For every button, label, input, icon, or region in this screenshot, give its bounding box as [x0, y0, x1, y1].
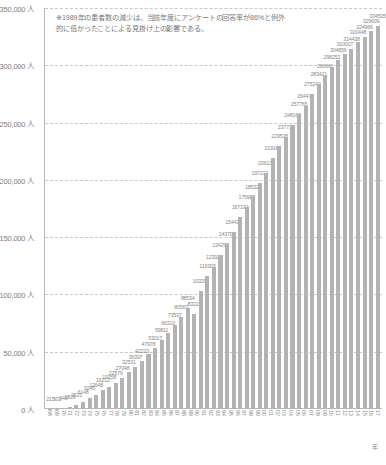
x-axis-tick-text: 97 — [241, 410, 247, 416]
bar — [343, 54, 347, 409]
bar — [88, 398, 92, 409]
y-axis-tick-label: 150,000 人 — [0, 232, 34, 243]
x-axis-tick: 02 — [274, 410, 281, 444]
bar — [48, 409, 52, 410]
x-axis-tick-text: 86 — [168, 410, 174, 416]
x-axis-tick-text: 80 — [128, 410, 134, 416]
x-axis-tick-text: 81 — [134, 410, 140, 416]
x-axis-tick-text: 07 — [308, 410, 314, 416]
bar — [114, 383, 118, 409]
bar — [212, 267, 216, 409]
x-axis-tick: 82 — [141, 410, 148, 444]
x-axis-tick: 88 — [181, 410, 188, 444]
x-axis-tick: 80 — [127, 410, 134, 444]
x-axis-tick: 89 — [187, 410, 194, 444]
x-axis-tick: 94 — [221, 410, 228, 444]
x-axis-tick: 71 — [67, 410, 74, 444]
x-axis-tick-text: 95 — [228, 410, 234, 416]
bar — [277, 146, 281, 409]
bar — [218, 255, 222, 409]
bar — [74, 405, 78, 409]
x-axis-tick: 07 — [308, 410, 315, 444]
bar — [120, 378, 124, 409]
y-axis-tick-label: 100,000 人 — [0, 289, 34, 300]
x-axis-tick: 17 — [375, 410, 382, 444]
x-axis-tick-text: 00 — [261, 410, 267, 416]
x-axis-tick-text: 11 — [335, 410, 341, 415]
x-axis-tick: 06 — [301, 410, 308, 444]
y-axis-tick-label: 50,000 人 — [4, 346, 34, 357]
x-axis-tick: 97 — [241, 410, 248, 444]
x-axis-tick-text: 16 — [368, 410, 374, 416]
x-axis-tick-text: 01 — [268, 410, 274, 416]
x-axis-tick: 03 — [281, 410, 288, 444]
x-axis-tick-text: 09 — [322, 410, 328, 416]
bar — [376, 26, 380, 409]
x-axis-tick-text: 15 — [362, 410, 368, 416]
x-axis-tick: 86 — [167, 410, 174, 444]
bar-chart: 350,000 人300,000 人250,000 人200,000 人150,… — [0, 0, 386, 465]
x-axis-tick: 85 — [161, 410, 168, 444]
y-axis-tick-label: 0 人 — [21, 404, 34, 415]
bar — [245, 207, 249, 409]
x-axis-tick-text: 76 — [101, 410, 107, 416]
bar — [179, 317, 183, 409]
x-axis-tick: 93 — [214, 410, 221, 444]
x-axis-tick-text: 05 — [295, 410, 301, 416]
bar — [271, 158, 275, 409]
x-axis-tick: 04 — [288, 410, 295, 444]
x-axis-tick: 76 — [101, 410, 108, 444]
x-axis-tick: 87 — [174, 410, 181, 444]
x-axis-tick: 15 — [361, 410, 368, 444]
x-axis-tick-text: 84 — [154, 410, 160, 416]
bar — [349, 49, 353, 409]
x-axis-tick: 90 — [194, 410, 201, 444]
x-axis-tick: 16 — [368, 410, 375, 444]
x-axis-tick: 01 — [268, 410, 275, 444]
x-axis-tick-text: 77 — [108, 410, 114, 416]
x-axis-tick: 84 — [154, 410, 161, 444]
bar — [310, 94, 314, 409]
x-axis-tick-text: 04 — [288, 410, 294, 416]
bar — [61, 408, 65, 409]
bar — [297, 114, 301, 409]
bar — [186, 308, 190, 409]
x-axis-tick-text: 72 — [74, 410, 80, 416]
x-axis-tick-text: 12 — [342, 410, 348, 416]
bar — [199, 291, 203, 409]
bar — [140, 361, 144, 409]
bar — [146, 354, 150, 409]
x-axis-tick: 13 — [348, 410, 355, 444]
x-axis-tick-text: 93 — [215, 410, 221, 416]
bar — [166, 333, 170, 409]
x-axis-tick-text: 75 — [94, 410, 100, 416]
bar — [317, 84, 321, 409]
bar — [336, 60, 340, 409]
x-axis-tick-text: 71 — [67, 410, 73, 416]
bar — [369, 31, 373, 409]
x-axis-tick-text: 98 — [248, 410, 254, 416]
x-axis-tick: 12 — [341, 410, 348, 444]
bar — [192, 314, 196, 409]
bar — [101, 390, 105, 409]
bar — [107, 387, 111, 409]
bar — [304, 106, 308, 409]
bar-slot: 334505 — [374, 8, 381, 409]
x-axis-tick: 11 — [335, 410, 342, 444]
x-axis-tick-text: 96 — [235, 410, 241, 416]
x-axis-tick: 92 — [208, 410, 215, 444]
bar — [153, 348, 157, 409]
x-axis-tick: 08 — [315, 410, 322, 444]
x-axis-tick-text: 87 — [174, 410, 180, 416]
x-axis-tick-text: 85 — [161, 410, 167, 416]
bar — [330, 67, 334, 409]
bar — [55, 409, 59, 410]
x-axis-tick-text: 91 — [201, 410, 207, 416]
x-axis-tick: 00 — [261, 410, 268, 444]
x-axis-tick: 99 — [254, 410, 261, 444]
x-axis-tick: 79 — [121, 410, 128, 444]
bar — [173, 325, 177, 409]
x-axis-tick-text: 74 — [87, 410, 93, 416]
x-axis-tick-text: 10 — [328, 410, 334, 416]
x-axis-tick-text: 99 — [255, 410, 261, 416]
